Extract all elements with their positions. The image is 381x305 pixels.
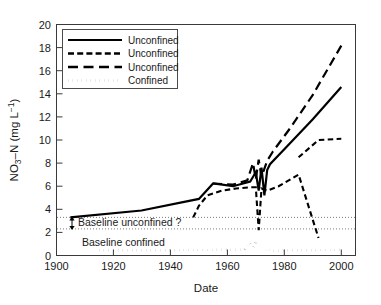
x-tick-label: 1980: [272, 260, 296, 272]
y-tick-label: 2: [45, 226, 51, 238]
legend-label-unconfined-short-dash: Unconfined: [128, 48, 179, 59]
chart-figure: 0 2 4 6 8 10 12 14 16 18 20 1900 1920 19…: [0, 0, 381, 305]
x-tick-label: 1900: [44, 260, 68, 272]
y-tick-label: 12: [39, 111, 51, 123]
x-tick-label: 1940: [158, 260, 182, 272]
chart-legend: Unconfined Unconfined Unconfined Confine…: [63, 30, 179, 89]
legend-label-unconfined-solid: Unconfined: [128, 35, 179, 46]
y-tick-label: 14: [39, 88, 51, 100]
y-tick-label: 20: [39, 19, 51, 31]
x-tick-label: 2000: [329, 260, 353, 272]
y-axis-title-sup: −1: [6, 102, 16, 112]
x-axis-title: Date: [194, 282, 218, 294]
y-axis-title-mid: N (mg L: [8, 112, 20, 154]
y-tick-label: 6: [45, 180, 51, 192]
nitrate-trend-line-chart: 0 2 4 6 8 10 12 14 16 18 20 1900 1920 19…: [0, 0, 381, 305]
baseline-confined-label: Baseline confined: [82, 236, 165, 248]
legend-label-confined: Confined: [128, 75, 168, 86]
y-tick-label: 10: [39, 134, 51, 146]
x-tick-label: 1960: [215, 260, 239, 272]
x-tick-label: 1920: [101, 260, 125, 272]
y-tick-label: 18: [39, 42, 51, 54]
y-axis-title-prefix: NO: [8, 164, 20, 181]
legend-label-unconfined-long-dash: Unconfined: [128, 62, 179, 73]
y-tick-label: 16: [39, 65, 51, 77]
y-axis-title-suffix: ): [8, 98, 20, 102]
y-tick-label: 4: [45, 203, 51, 215]
y-tick-label: 8: [45, 157, 51, 169]
baseline-unconfined-label: Baseline unconfined ?: [78, 216, 181, 228]
